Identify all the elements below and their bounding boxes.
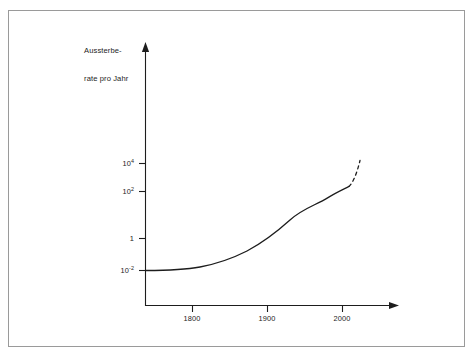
y-axis-title: Aussterbe- rate pro Jahr [84,27,128,102]
figure-container: Aussterbe- rate pro Jahr 104 102 1 10-2 … [0,0,474,357]
y-tick-label-1: 1 [100,234,134,243]
series-line-observed [146,186,349,270]
y-tick-label-10e2: 102 [100,187,134,196]
y-axis-title-line2: rate pro Jahr [84,74,128,83]
y-tick-label-10e4: 104 [100,159,134,168]
y-axis-title-line1: Aussterbe- [84,46,128,55]
x-axis [145,302,399,309]
x-tick-label-1800: 1800 [172,314,212,323]
y-axis [142,42,149,306]
y-tick-label-10e-2: 10-2 [100,266,134,275]
x-axis-arrow-icon [389,302,399,309]
x-tick-label-2000: 2000 [322,314,362,323]
x-tick-label-1900: 1900 [247,314,287,323]
chart-plot-area [0,0,474,357]
series-line-projection [349,161,360,187]
y-axis-arrow-icon [142,42,149,52]
